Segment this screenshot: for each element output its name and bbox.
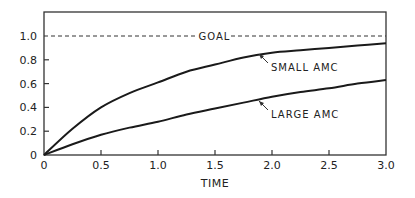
y-tick-label: 0.6 (20, 78, 38, 91)
annotation-label: LARGE AMC (271, 109, 339, 120)
x-axis-title: TIME (200, 177, 229, 190)
y-tick-label: 0 (30, 149, 37, 162)
goal-line: GOAL (44, 31, 386, 42)
x-tick-label: 2.0 (263, 159, 281, 172)
x-tick-label: 0 (41, 159, 48, 172)
goal-label: GOAL (199, 31, 231, 42)
x-tick-label: 2.5 (320, 159, 338, 172)
y-tick-label: 1.0 (20, 30, 38, 43)
x-axis: 0 0.5 1.0 1.5 2.0 2.5 3.0 TIME (41, 150, 395, 190)
annotation-small-amc: SMALL AMC (259, 54, 339, 73)
series-small-amc (44, 43, 386, 155)
annotation-label: SMALL AMC (271, 62, 339, 73)
y-tick-label: 0.2 (20, 125, 38, 138)
line-chart: 0 0.2 0.4 0.6 0.8 1.0 0 0.5 1.0 1.5 2.0 … (0, 0, 415, 198)
x-tick-label: 1.5 (206, 159, 224, 172)
x-tick-label: 1.0 (149, 159, 167, 172)
x-tick-label: 3.0 (377, 159, 395, 172)
y-tick-label: 0.8 (20, 54, 38, 67)
annotation-large-amc: LARGE AMC (259, 101, 339, 120)
x-tick-label: 0.5 (92, 159, 110, 172)
y-tick-label: 0.4 (20, 101, 38, 114)
